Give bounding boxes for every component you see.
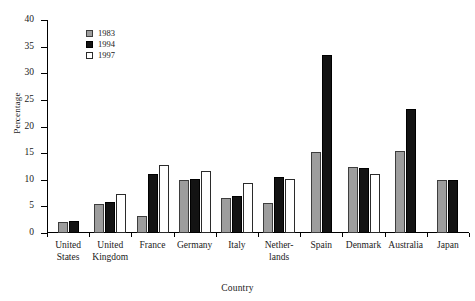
- y-axis-tick-label: 40: [12, 15, 34, 25]
- y-axis-tick-label: 35: [12, 42, 34, 52]
- bar-chart-figure: Percentage 0510152025303540 UnitedStates…: [0, 0, 475, 301]
- bar: [137, 216, 147, 233]
- y-axis-tick-label: 20: [12, 122, 34, 132]
- y-axis-tick-label: 25: [12, 95, 34, 105]
- x-axis-tick: [258, 233, 259, 237]
- bar: [448, 180, 458, 233]
- legend-swatch-icon: [86, 52, 93, 59]
- x-axis-tick: [469, 233, 470, 237]
- bar: [322, 55, 332, 233]
- y-axis-tick-label: 30: [12, 69, 34, 79]
- legend-item: 1997: [86, 50, 115, 61]
- bar: [348, 167, 358, 233]
- legend-label: 1997: [98, 50, 115, 61]
- bar: [370, 174, 380, 233]
- bar: [94, 204, 104, 233]
- x-axis-tick: [89, 233, 90, 237]
- x-axis-tick: [427, 233, 428, 237]
- y-axis-tick-label: 0: [12, 228, 34, 238]
- bar: [274, 177, 284, 233]
- bar: [311, 152, 321, 233]
- legend-item: 1983: [86, 28, 115, 39]
- bar: [201, 171, 211, 233]
- x-axis-category-label: Japan: [421, 240, 475, 252]
- bar: [69, 221, 79, 233]
- x-axis-tick: [47, 233, 48, 237]
- bar: [221, 198, 231, 233]
- bar: [179, 180, 189, 233]
- legend-swatch-icon: [86, 30, 93, 37]
- bar: [58, 222, 68, 233]
- bar: [406, 109, 416, 233]
- x-axis-tick: [342, 233, 343, 237]
- bar: [116, 194, 126, 233]
- bar: [437, 180, 447, 233]
- y-axis-tick-label: 15: [12, 148, 34, 158]
- x-axis-tick: [216, 233, 217, 237]
- y-axis-tick-label: 5: [12, 202, 34, 212]
- legend: 198319941997: [86, 28, 115, 61]
- legend-label: 1994: [98, 39, 115, 50]
- bar: [243, 183, 253, 233]
- legend-label: 1983: [98, 28, 115, 39]
- legend-swatch-icon: [86, 41, 93, 48]
- bar: [263, 203, 273, 233]
- bar: [190, 179, 200, 233]
- x-axis-tick: [385, 233, 386, 237]
- y-axis-tick-label: 10: [12, 175, 34, 185]
- x-axis-title: Country: [0, 283, 475, 293]
- bar: [359, 168, 369, 233]
- bar: [232, 196, 242, 233]
- x-axis-tick: [131, 233, 132, 237]
- bar: [395, 151, 405, 233]
- bar: [148, 174, 158, 233]
- x-axis-tick: [300, 233, 301, 237]
- bar: [159, 165, 169, 233]
- bar: [285, 179, 295, 233]
- bar: [105, 202, 115, 233]
- x-axis-tick: [174, 233, 175, 237]
- legend-item: 1994: [86, 39, 115, 50]
